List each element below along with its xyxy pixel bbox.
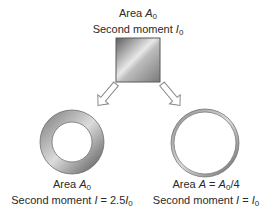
top-moment-text: Second moment I0 <box>68 23 208 39</box>
arrow-right-icon <box>157 80 186 110</box>
right-moment-text: Second moment I = I0 <box>137 194 275 208</box>
top-area-text: Area A0 <box>68 7 208 23</box>
left-moment-text: Second moment I = 2.5I0 <box>2 194 142 208</box>
thin-ring-section <box>171 109 239 177</box>
left-label: Area A0 Second moment I = 2.5I0 <box>2 178 142 208</box>
top-label: Area A0 Second moment I0 <box>68 7 208 39</box>
right-label: Area A = A0/4 Second moment I = I0 <box>137 178 275 208</box>
thick-ring-section <box>40 110 104 174</box>
arrow-left-icon <box>93 80 122 110</box>
right-area-text: Area A = A0/4 <box>137 178 275 194</box>
square-section <box>116 38 160 82</box>
left-area-text: Area A0 <box>2 178 142 194</box>
